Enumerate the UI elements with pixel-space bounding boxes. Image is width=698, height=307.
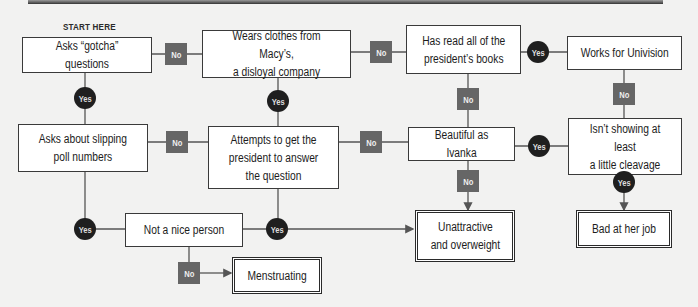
no-badge: No [457, 170, 479, 192]
node-cleavage: Isn’t showing at least a little cleavage [568, 118, 682, 175]
outcome-unattractive: Unattractive and overweight [415, 210, 515, 262]
no-badge: No [178, 262, 200, 284]
yes-badge: Yes [613, 171, 635, 193]
yes-badge: Yes [74, 218, 96, 240]
node-works-for-univision: Works for Univision [567, 36, 682, 70]
no-badge: No [370, 41, 392, 63]
node-read-presidents-books: Has read all of the president’s books [406, 25, 521, 74]
node-attempts-answer: Attempts to get the president to answer … [208, 126, 339, 189]
no-badge: No [165, 43, 187, 65]
outcome-menstruating: Menstruating [232, 257, 322, 294]
yes-badge: Yes [527, 41, 549, 63]
no-badge: No [613, 83, 635, 105]
node-not-nice-person: Not a nice person [125, 213, 243, 247]
outcome-bad-at-job: Bad at her job [576, 210, 672, 248]
node-beautiful-as-ivanka: Beautiful as Ivanka [408, 127, 515, 161]
no-badge: No [360, 131, 382, 153]
yes-badge: Yes [74, 87, 96, 109]
yes-badge: Yes [266, 218, 288, 240]
yes-badge: Yes [528, 135, 550, 157]
no-badge: No [166, 131, 188, 153]
no-badge: No [457, 88, 479, 110]
node-wears-macys: Wears clothes from Macy’s, a disloyal co… [202, 30, 351, 78]
node-asks-gotcha-questions: Asks “gotcha” questions [22, 37, 152, 73]
yes-badge: Yes [267, 90, 289, 112]
node-asks-poll-numbers: Asks about slipping poll numbers [18, 124, 148, 172]
